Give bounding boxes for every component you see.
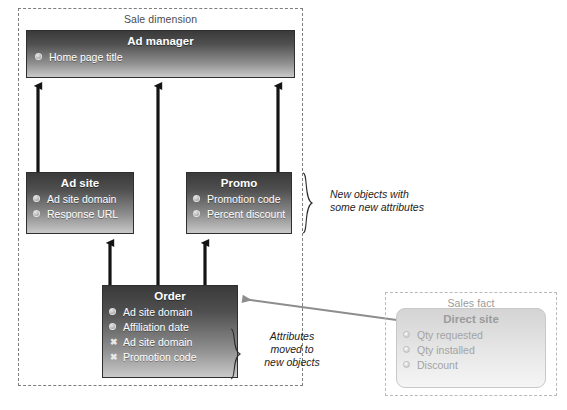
cross-icon: ✖ bbox=[109, 353, 118, 362]
attribute-label: Promotion code bbox=[207, 192, 281, 207]
attribute-row: Ad site domain bbox=[27, 192, 133, 207]
attribute-row: Qty installed bbox=[397, 343, 545, 358]
attribute-row: Response URL bbox=[27, 207, 133, 222]
attribute-row-removed: ✖ Promotion code bbox=[103, 350, 237, 365]
annotation-moved-attributes: Attributes moved to new objects bbox=[244, 330, 340, 369]
attribute-row: Affiliation date bbox=[103, 320, 237, 335]
attribute-label: Affiliation date bbox=[123, 320, 189, 335]
brace-moved-attrs bbox=[228, 328, 242, 380]
cross-icon: ✖ bbox=[109, 338, 118, 347]
annotation-line: New objects with bbox=[330, 188, 500, 201]
entity-order-attributes: Ad site domain Affiliation date ✖ Ad sit… bbox=[103, 305, 237, 365]
circle-icon bbox=[109, 323, 118, 332]
circle-icon bbox=[403, 346, 412, 355]
brace-new-objects bbox=[300, 172, 314, 234]
attribute-label: Ad site domain bbox=[123, 305, 192, 320]
entity-promo-title: Promo bbox=[187, 176, 291, 191]
attribute-row: Home page title bbox=[27, 50, 294, 65]
entity-order-title: Order bbox=[103, 289, 237, 304]
annotation-line: some new attributes bbox=[330, 201, 500, 214]
attribute-label: Promotion code bbox=[123, 350, 197, 365]
attribute-row: Discount bbox=[397, 358, 545, 373]
circle-icon bbox=[35, 53, 44, 62]
circle-icon bbox=[33, 195, 42, 204]
attribute-row-removed: ✖ Ad site domain bbox=[103, 335, 237, 350]
attribute-label: Response URL bbox=[47, 207, 118, 222]
group-sale-dimension-title: Sale dimension bbox=[19, 13, 302, 25]
attribute-label: Qty requested bbox=[417, 328, 483, 343]
circle-icon bbox=[109, 308, 118, 317]
attribute-label: Home page title bbox=[49, 50, 123, 65]
entity-ad-manager[interactable]: Ad manager Home page title bbox=[26, 30, 295, 78]
circle-icon bbox=[193, 195, 202, 204]
attribute-row: Promotion code bbox=[187, 192, 291, 207]
attribute-row: Percent discount bbox=[187, 207, 291, 222]
entity-direct-site-attributes: Qty requested Qty installed Discount bbox=[397, 328, 545, 373]
attribute-label: Ad site domain bbox=[123, 335, 192, 350]
circle-icon bbox=[403, 361, 412, 370]
attribute-row: Ad site domain bbox=[103, 305, 237, 320]
entity-promo[interactable]: Promo Promotion code Percent discount bbox=[186, 172, 292, 234]
attribute-label: Qty installed bbox=[417, 343, 475, 358]
entity-ad-manager-title: Ad manager bbox=[27, 34, 294, 49]
circle-icon bbox=[403, 331, 412, 340]
annotation-line: new objects bbox=[244, 356, 340, 369]
entity-ad-site[interactable]: Ad site Ad site domain Response URL bbox=[26, 172, 134, 234]
entity-ad-manager-attributes: Home page title bbox=[27, 50, 294, 65]
annotation-line: moved to bbox=[244, 343, 340, 356]
entity-direct-site[interactable]: Direct site Qty requested Qty installed … bbox=[396, 308, 546, 388]
attribute-label: Ad site domain bbox=[47, 192, 116, 207]
entity-ad-site-attributes: Ad site domain Response URL bbox=[27, 192, 133, 222]
entity-promo-attributes: Promotion code Percent discount bbox=[187, 192, 291, 222]
entity-direct-site-title: Direct site bbox=[397, 312, 545, 327]
annotation-new-objects: New objects with some new attributes bbox=[330, 188, 500, 214]
entity-ad-site-title: Ad site bbox=[27, 176, 133, 191]
attribute-label: Percent discount bbox=[207, 207, 285, 222]
circle-icon bbox=[33, 210, 42, 219]
attribute-row: Qty requested bbox=[397, 328, 545, 343]
circle-icon bbox=[193, 210, 202, 219]
annotation-line: Attributes bbox=[244, 330, 340, 343]
attribute-label: Discount bbox=[417, 358, 458, 373]
entity-order[interactable]: Order Ad site domain Affiliation date ✖ … bbox=[102, 285, 238, 378]
